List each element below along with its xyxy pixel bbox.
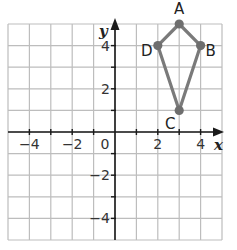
vertex-point-a (175, 19, 184, 28)
vertex-point-d (153, 41, 162, 50)
vertex-label-a: A (174, 0, 185, 18)
vertex-point-c (175, 106, 184, 115)
coordinate-plane: −4−22442−2−4 ABCD x y 0 (0, 0, 237, 250)
y-tick-label: −4 (89, 210, 110, 226)
vertex-label-d: D (141, 42, 153, 60)
y-axis-label: y (98, 22, 109, 40)
vertex-label-b: B (205, 42, 215, 60)
vertex-point-b (196, 41, 205, 50)
x-tick-label: −2 (62, 136, 83, 152)
x-tick-label: −4 (19, 136, 40, 152)
y-tick-label: 2 (101, 81, 110, 97)
axes (8, 18, 224, 240)
x-tick-label: 4 (196, 136, 205, 152)
y-tick-label: −2 (89, 167, 110, 183)
x-axis-label: x (213, 136, 224, 154)
vertex-label-c: C (165, 115, 175, 133)
x-tick-label: 2 (153, 136, 162, 152)
y-tick-label: 4 (101, 38, 110, 54)
origin-label: 0 (101, 136, 110, 152)
